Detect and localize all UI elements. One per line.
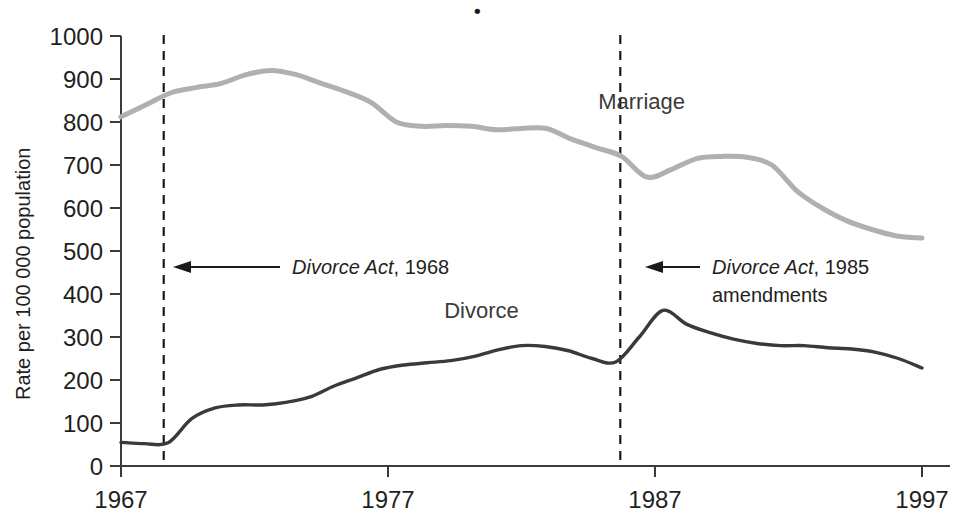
x-tick-label: 1997 [895, 486, 948, 513]
x-tick-label: 1967 [94, 486, 147, 513]
line-chart: Rate per 100 000 population 010020030040… [0, 0, 955, 528]
series-label-divorce: Divorce [444, 298, 519, 323]
y-axis-ticks: 01002003004005006007008009001000 [50, 23, 121, 480]
event-marker-lines [164, 35, 621, 466]
x-tick-label: 1987 [628, 486, 681, 513]
annotation-arrow-head [645, 261, 663, 273]
y-tick-label: 900 [63, 66, 103, 93]
annotation-act-name: Divorce Act [712, 256, 815, 278]
annotation-text-line2: amendments [712, 284, 828, 306]
y-tick-label: 0 [90, 453, 103, 480]
y-tick-label: 400 [63, 281, 103, 308]
y-tick-label: 600 [63, 195, 103, 222]
series-label-marriage: Marriage [598, 89, 685, 114]
y-tick-label: 100 [63, 410, 103, 437]
y-axis-title: Rate per 100 000 population [12, 148, 34, 400]
annotation-act-name: Divorce Act [292, 256, 395, 278]
y-tick-label: 700 [63, 152, 103, 179]
x-tick-label: 1977 [361, 486, 414, 513]
y-tick-label: 200 [63, 367, 103, 394]
series-line-divorce [121, 310, 922, 445]
y-tick-label: 800 [63, 109, 103, 136]
y-tick-label: 1000 [50, 23, 103, 50]
chart-annotations: Divorce Act, 1968Divorce Act, 1985amendm… [173, 256, 869, 306]
page-title-fragment: • [0, 0, 955, 14]
annotation-text: Divorce Act, 1985 [712, 256, 869, 278]
series-line-marriage [121, 70, 922, 238]
annotation-text: Divorce Act, 1968 [292, 256, 449, 278]
chart-container: • Rate per 100 000 population 0100200300… [0, 0, 955, 528]
annotation-arrow-head [173, 261, 191, 273]
annotation-divorce-act-1985: Divorce Act, 1985amendments [645, 256, 869, 306]
y-tick-label: 300 [63, 324, 103, 351]
annotation-year: , 1985 [814, 256, 870, 278]
annotation-divorce-act-1968: Divorce Act, 1968 [173, 256, 449, 278]
series-inline-labels: MarriageDivorce [444, 89, 685, 323]
x-axis-ticks: 1967197719871997 [94, 466, 948, 513]
annotation-year: , 1968 [394, 256, 450, 278]
y-tick-label: 500 [63, 238, 103, 265]
